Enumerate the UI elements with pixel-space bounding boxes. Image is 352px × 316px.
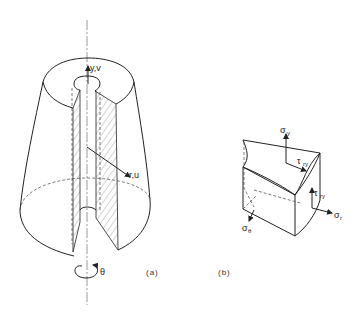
sigma-y-subscript: y bbox=[287, 130, 290, 136]
sigma-y-label: σ bbox=[280, 125, 286, 135]
section-left-hatched bbox=[73, 90, 80, 252]
sigma-r-subscript: r bbox=[340, 215, 342, 221]
section-right-hatched bbox=[95, 91, 118, 250]
tau-ry-side-subscript: ry bbox=[320, 193, 325, 199]
figure-b-stress-element: σ y τ ry τ ry σ r σ θ (b) bbox=[218, 125, 342, 277]
rotation-arrow bbox=[75, 265, 98, 278]
tau-ry-top-subscript: ry bbox=[303, 161, 308, 167]
outer-surface-right bbox=[118, 82, 150, 250]
theta-label: θ bbox=[100, 267, 105, 277]
bottom-hidden-edge bbox=[20, 178, 150, 210]
diagram-canvas: r,u y,v θ (a) σ y τ ry τ ry bbox=[0, 0, 352, 316]
tau-ry-top-label: τ bbox=[297, 156, 301, 166]
top-front-edge-right bbox=[116, 82, 134, 104]
top-front-edge-left bbox=[43, 82, 73, 108]
bottom-inner-hole bbox=[80, 207, 96, 210]
radial-label: r,u bbox=[129, 170, 139, 180]
outer-surface-left bbox=[20, 82, 74, 256]
figure-a-axisymmetric-body: r,u y,v θ (a) bbox=[20, 20, 159, 305]
element-top-face bbox=[243, 140, 320, 195]
axial-label: y,v bbox=[90, 63, 101, 73]
sigma-theta-arrow bbox=[249, 210, 254, 221]
caption-a: (a) bbox=[146, 268, 159, 277]
tau-ry-side-label: τ bbox=[314, 188, 318, 198]
caption-b: (b) bbox=[218, 268, 231, 277]
sigma-theta-subscript: θ bbox=[248, 228, 252, 234]
